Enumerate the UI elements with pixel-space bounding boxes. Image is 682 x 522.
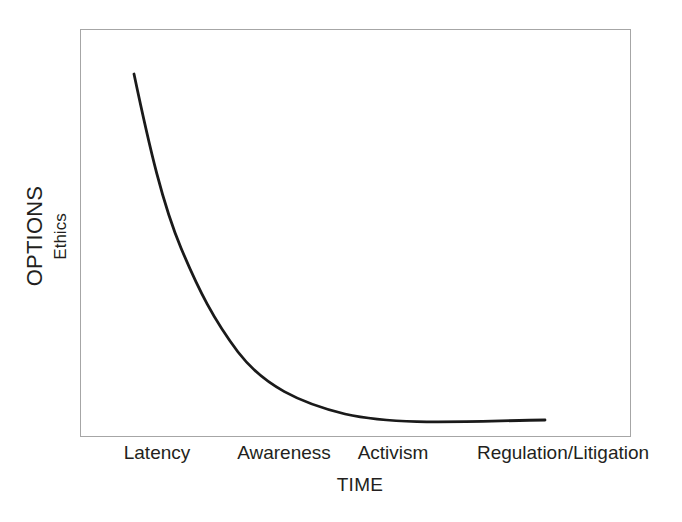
x-tick-label-activism: Activism bbox=[358, 443, 429, 464]
x-tick-label-regulation-litigation: Regulation/Litigation bbox=[477, 443, 649, 464]
x-tick-label-latency: Latency bbox=[124, 443, 191, 464]
y-axis-title-main: OPTIONS bbox=[24, 141, 46, 331]
x-axis-title: TIME bbox=[337, 474, 384, 496]
y-axis-label-group: OPTIONS Ethics bbox=[0, 0, 80, 466]
chart-figure: OPTIONS Ethics Latency Awareness Activis… bbox=[0, 0, 682, 522]
y-axis-title-sub: Ethics bbox=[52, 142, 69, 332]
plot-area-frame bbox=[80, 29, 631, 437]
x-tick-label-awareness: Awareness bbox=[237, 443, 331, 464]
